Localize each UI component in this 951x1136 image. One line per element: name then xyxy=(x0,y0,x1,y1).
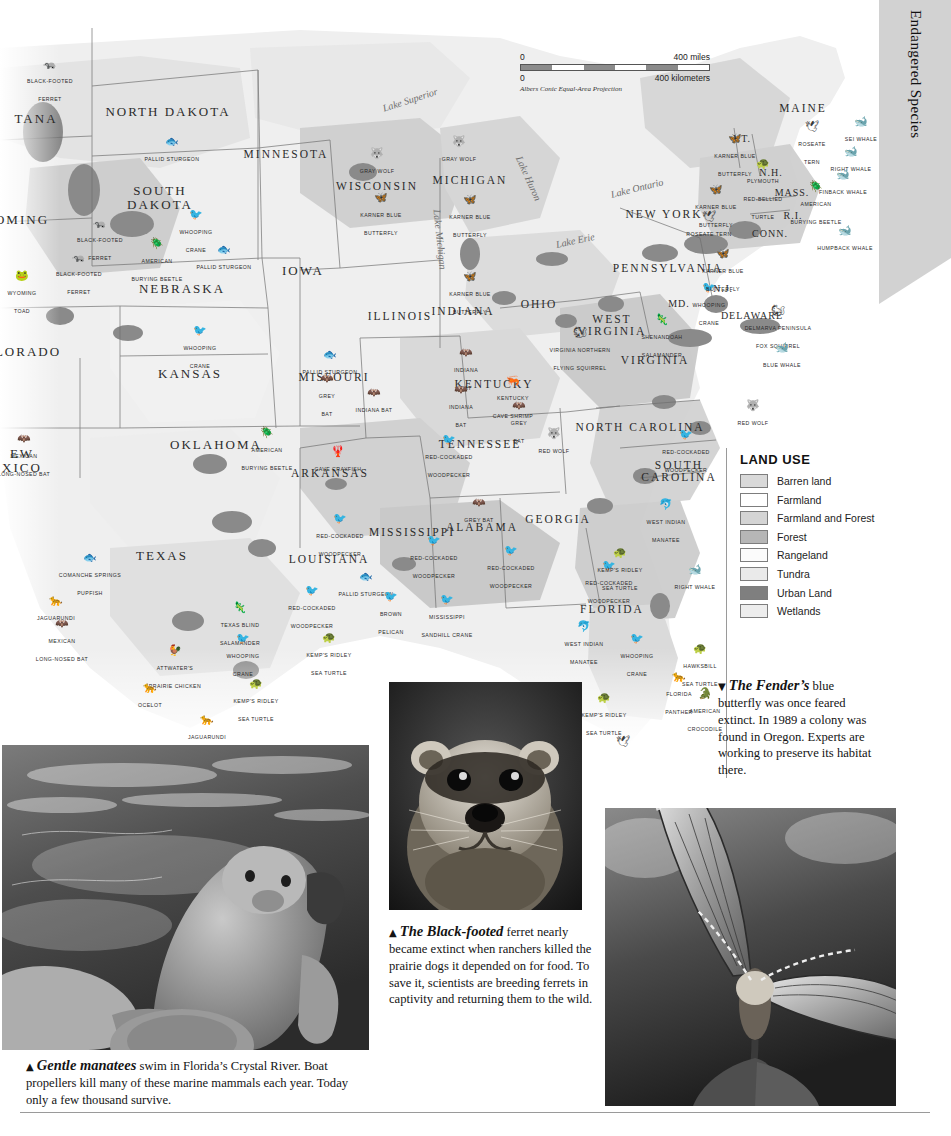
species-marker: 🐸WYOMINGTOAD xyxy=(7,270,36,317)
turtle-icon: 🐢 xyxy=(597,547,642,558)
species-marker: 🐦RED-COCKADEDWOODPECKER xyxy=(288,585,335,632)
cat-icon: 🐆 xyxy=(665,671,693,682)
bird-icon: 🐦 xyxy=(410,535,457,546)
whale-icon: 🐋 xyxy=(819,169,867,180)
species-marker: 🐿VIRGINIA NORTHERNFLYING SQUIRREL xyxy=(550,327,611,374)
species-marker: 🦡BLACK-FOOTEDFERRET xyxy=(56,251,102,298)
species-marker: 🕊ROSEATE TERN xyxy=(686,211,731,240)
bat-icon: 🦇 xyxy=(356,387,393,398)
legend-item-rangeland: Rangeland xyxy=(740,548,890,562)
legend-item-farmland-and-forest: Farmland and Forest xyxy=(740,511,890,525)
species-marker: 🐟COMANCHE SPRINGSPUPFISH xyxy=(59,552,121,599)
species-label: KARNER BLUEBUTTERFLY xyxy=(449,291,491,315)
legend-label: Barren land xyxy=(777,475,831,487)
bird-icon: 🐦 xyxy=(425,434,472,445)
section-tab-title: Endangered Species xyxy=(885,6,945,256)
species-marker: 🦇INDIANA BAT xyxy=(356,387,393,416)
bird-icon: 🐦 xyxy=(662,429,709,440)
ferret-caption: ▲ The Black-footed ferret nearly became … xyxy=(389,922,599,1008)
toad-icon: 🐸 xyxy=(7,270,36,281)
species-label: BLACK-FOOTEDFERRET xyxy=(27,78,73,102)
salamander-icon: 🦎 xyxy=(641,314,682,325)
species-label: MEXICANLONG-NOSED BAT xyxy=(0,453,50,477)
species-label: MISSISSIPPISANDHILL CRANE xyxy=(421,614,472,638)
tab-fold xyxy=(879,258,951,304)
bat-icon: 🦇 xyxy=(0,433,50,444)
species-label: KARNER BLUEBUTTERFLY xyxy=(449,214,491,238)
species-marker: 🐦WHOOPINGCRANE xyxy=(227,633,260,680)
ferret-caption-lead: The Black-footed xyxy=(400,923,504,939)
manatee-caption: ▲ Gentle manatees swim in Florida’s Crys… xyxy=(26,1056,366,1109)
legend-swatch xyxy=(740,604,768,618)
species-label: SEI WHALE xyxy=(845,136,877,142)
species-label: MEXICANLONG-NOSED BAT xyxy=(36,638,88,662)
species-label: CAVE CRAYFISH xyxy=(315,466,362,472)
legend-swatch xyxy=(740,493,768,507)
crane-icon: 🐦 xyxy=(180,209,213,220)
species-label: RIGHT WHALE xyxy=(675,584,716,590)
scale-km-zero: 0 xyxy=(520,73,525,83)
species-label: HUMPBACK WHALE xyxy=(817,245,873,251)
footer-rule xyxy=(20,1112,930,1113)
manatee-photo-art xyxy=(2,745,369,1050)
butterfly-caption: ▼ The Fender’s blue butterfly was once f… xyxy=(718,676,878,779)
species-label: WHOOPINGCRANE xyxy=(621,653,654,677)
species-marker: 🐦BROWNPELICAN xyxy=(378,591,403,638)
species-label: INDIANABAT xyxy=(449,404,473,428)
cat-icon: 🐆 xyxy=(138,682,162,693)
species-label: SHENANDOAHSALAMANDER xyxy=(641,334,682,358)
species-marker: 🦋KARNER BLUEBUTTERFLY xyxy=(360,192,402,239)
species-marker: 🐆OCELOT xyxy=(138,682,162,711)
species-label: ROSEATE TERN xyxy=(686,231,731,237)
species-label: KARNER BLUEBUTTERFLY xyxy=(360,212,402,236)
species-label: AMERICANBURYING BEETLE xyxy=(241,447,292,471)
legend-item-farmland: Farmland xyxy=(740,493,890,507)
species-label: RED-COCKADEDWOODPECKER xyxy=(288,605,335,629)
species-marker: 🦇MEXICANLONG-NOSED BAT xyxy=(36,618,88,665)
species-label: BLUE WHALE xyxy=(763,362,801,368)
species-label: GREYBAT xyxy=(319,393,336,417)
fish-icon: 🐟 xyxy=(59,552,121,563)
butterfly-icon: 🦋 xyxy=(702,248,744,259)
state-label-texas: TEXAS xyxy=(136,549,188,563)
species-marker: 🦇GREYBAT xyxy=(511,400,528,447)
species-label: WHOOPINGCRANE xyxy=(184,345,217,369)
legend-label: Tundra xyxy=(777,568,810,580)
species-marker: 🦡BLACK-FOOTEDFERRET xyxy=(27,58,73,105)
whale-icon: 🐋 xyxy=(675,564,716,575)
bird-icon: 🐦 xyxy=(487,545,534,556)
state-label-iowa: IOWA xyxy=(282,264,324,278)
turtle-icon: 🐢 xyxy=(744,158,783,169)
species-label: WEST INDIANMANATEE xyxy=(647,519,686,543)
scale-km-max: 400 kilometers xyxy=(655,73,710,83)
manatee-caption-lead: Gentle manatees xyxy=(37,1057,136,1073)
tern-icon: 🕊 xyxy=(600,736,645,747)
legend-label: Forest xyxy=(777,531,807,543)
fish-icon: 🐟 xyxy=(196,244,251,255)
land-use-legend: LAND USE Barren landFarmlandFarmland and… xyxy=(740,452,890,623)
species-label: BROWNPELICAN xyxy=(378,611,403,635)
legend-label: Urban Land xyxy=(777,587,832,599)
species-marker: 🕊ROSEATETERN xyxy=(798,121,826,168)
species-label: RED-COCKADEDWOODPECKER xyxy=(410,555,457,579)
state-label-conn: CONN. xyxy=(752,229,788,240)
species-marker: 🐦WHOOPINGCRANE xyxy=(621,633,654,680)
species-label: RED WOLF xyxy=(539,448,570,454)
species-label: AMERICANBURYING BEETLE xyxy=(131,258,182,282)
species-marker: 🕊ROSEATE TERN xyxy=(600,736,645,749)
species-label: RED-COCKADEDWOODPECKER xyxy=(316,533,363,557)
species-marker: 🦋KARNER BLUEBUTTERFLY xyxy=(449,194,491,241)
species-marker: 🦇MEXICANLONG-NOSED BAT xyxy=(0,433,50,480)
species-label: COMANCHE SPRINGSPUPFISH xyxy=(59,572,121,596)
legend-label: Rangeland xyxy=(777,549,828,561)
species-marker: 🐦RED-COCKADEDWOODPECKER xyxy=(425,434,472,481)
state-label-ohio: OHIO xyxy=(521,298,558,310)
fish-icon: 🐟 xyxy=(144,136,199,147)
species-marker: 🐦WHOOPINGCRANE xyxy=(184,325,217,372)
species-marker: 🦋KARNER BLUEBUTTERFLY xyxy=(702,248,744,295)
legend-label: Wetlands xyxy=(777,605,821,617)
species-label: GREY BAT xyxy=(464,517,493,523)
species-marker: 🐢KEMP'S RIDLEYSEA TURTLE xyxy=(306,632,351,679)
species-marker: 🐢KEMP'S RIDLEYSEA TURTLE xyxy=(581,692,626,739)
state-label-georgia: GEORGIA xyxy=(525,513,591,525)
